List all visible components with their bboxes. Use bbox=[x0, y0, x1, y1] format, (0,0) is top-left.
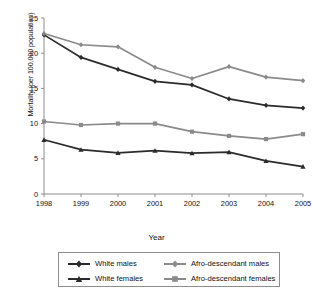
data-point bbox=[79, 123, 83, 127]
y-tick-label: 15 bbox=[14, 84, 38, 93]
y-tick-label: 5 bbox=[14, 154, 38, 163]
data-point bbox=[301, 132, 305, 136]
legend-label: Afro-descendant females bbox=[191, 274, 275, 283]
data-point bbox=[264, 137, 268, 141]
data-point bbox=[116, 122, 120, 126]
legend-swatch-afro-descendant-males bbox=[163, 259, 187, 269]
data-point bbox=[190, 130, 194, 134]
x-tick-label: 1998 bbox=[28, 199, 60, 208]
legend-item-afro-descendant-males: Afro-descendant males bbox=[163, 259, 281, 269]
data-point bbox=[42, 119, 46, 123]
legend-label: White males bbox=[95, 259, 137, 268]
x-tick-label: 2000 bbox=[102, 199, 134, 208]
data-point bbox=[190, 82, 195, 87]
x-axis-title: Year bbox=[0, 233, 313, 242]
data-point bbox=[79, 42, 84, 47]
data-point bbox=[153, 79, 158, 84]
x-tick-label: 2003 bbox=[213, 199, 245, 208]
legend: White males Afro-descendant males White … bbox=[58, 252, 280, 287]
y-tick-label: 20 bbox=[14, 49, 38, 58]
mortality-line-chart: Mortality (per 100,000 population) 05101… bbox=[0, 0, 313, 294]
legend-swatch-white-females bbox=[67, 274, 91, 284]
x-tick-label: 2002 bbox=[176, 199, 208, 208]
data-point bbox=[227, 96, 232, 101]
x-tick-label: 1999 bbox=[65, 199, 97, 208]
data-point bbox=[301, 78, 306, 83]
data-point bbox=[227, 64, 232, 69]
legend-row: White males Afro-descendant males bbox=[59, 256, 281, 271]
legend-swatch-white-males bbox=[67, 259, 91, 269]
data-point bbox=[264, 103, 269, 108]
y-tick-label: 0 bbox=[14, 190, 38, 199]
plot-area bbox=[0, 0, 313, 294]
legend-item-afro-descendant-females: Afro-descendant females bbox=[163, 274, 281, 284]
data-point bbox=[116, 67, 121, 72]
legend-label: Afro-descendant males bbox=[191, 259, 269, 268]
data-point bbox=[301, 106, 306, 111]
legend-row: White females Afro-descendant females bbox=[59, 271, 281, 286]
x-tick-label: 2001 bbox=[139, 199, 171, 208]
legend-swatch-afro-descendant-females bbox=[163, 274, 187, 284]
data-point bbox=[227, 134, 231, 138]
data-point bbox=[153, 122, 157, 126]
y-tick-label: 25 bbox=[14, 14, 38, 23]
legend-label: White females bbox=[95, 274, 143, 283]
data-series-group bbox=[41, 31, 305, 169]
legend-item-white-females: White females bbox=[59, 274, 163, 284]
y-tick-label: 10 bbox=[14, 119, 38, 128]
x-tick-label: 2004 bbox=[250, 199, 282, 208]
x-tick-label: 2005 bbox=[287, 199, 313, 208]
legend-item-white-males: White males bbox=[59, 259, 163, 269]
data-point bbox=[264, 75, 269, 80]
data-point bbox=[190, 76, 195, 81]
